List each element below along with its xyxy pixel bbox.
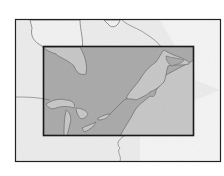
texture-inset — [44, 47, 193, 135]
map-canvas — [0, 0, 224, 176]
locator-map — [0, 0, 224, 176]
highlight-region — [44, 47, 194, 136]
